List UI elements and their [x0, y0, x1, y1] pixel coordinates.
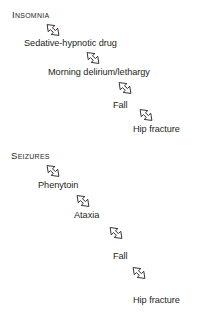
cascade-node-fall: Fall [113, 100, 128, 111]
cascade-node-hip-fracture: Hip fracture [133, 124, 180, 135]
block-arrow-down-right-icon [112, 76, 138, 100]
cascade-node-hip-fracture: Hip fracture [133, 295, 180, 306]
cascade-diagram: Insomnia Sedative-hypnotic drug Morning … [0, 0, 203, 317]
cascade-node-ataxia: Ataxia [74, 210, 99, 221]
block-arrow-down-right-icon [126, 261, 152, 285]
block-arrow-down-right-icon [103, 221, 129, 245]
